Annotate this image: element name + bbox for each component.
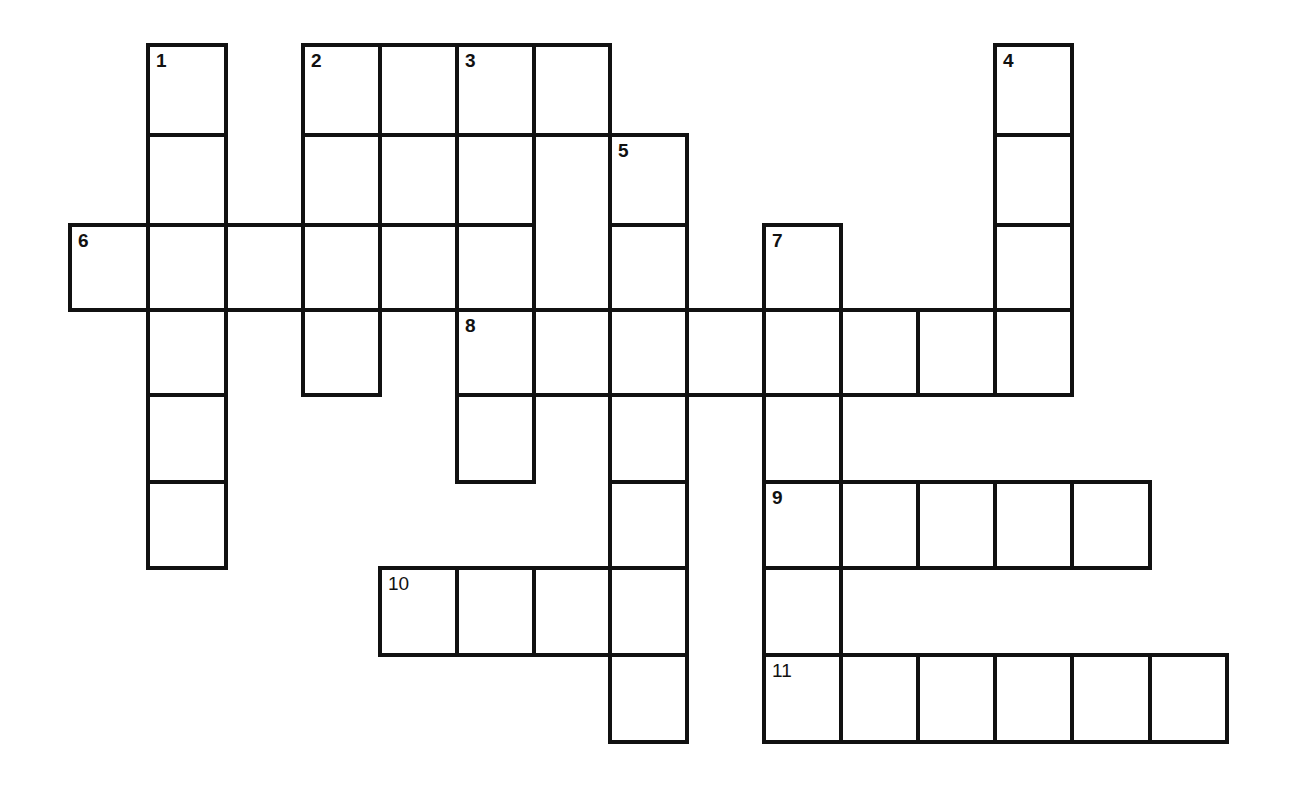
- crossword-cell[interactable]: [608, 653, 689, 744]
- crossword-cell[interactable]: [146, 480, 228, 570]
- clue-number: 5: [618, 141, 629, 160]
- crossword-cell[interactable]: [378, 43, 459, 137]
- crossword-cell[interactable]: [1070, 653, 1152, 744]
- clue-number: 4: [1003, 51, 1014, 70]
- clue-number: 3: [465, 51, 476, 70]
- clue-number: 10: [388, 574, 409, 593]
- clue-number: 1: [156, 51, 167, 70]
- crossword-cell[interactable]: 1: [146, 43, 228, 137]
- crossword-cell[interactable]: [762, 308, 843, 397]
- crossword-cell[interactable]: [993, 308, 1074, 397]
- crossword-cell[interactable]: [608, 480, 689, 570]
- crossword-cell[interactable]: [839, 653, 920, 744]
- crossword-cell[interactable]: [608, 223, 689, 312]
- crossword-cell[interactable]: [1148, 653, 1229, 744]
- crossword-cell[interactable]: [1070, 480, 1152, 570]
- crossword-cell[interactable]: [608, 566, 689, 657]
- crossword-cell[interactable]: 9: [762, 480, 843, 570]
- crossword-cell[interactable]: 4: [993, 43, 1074, 137]
- crossword-cell[interactable]: [455, 566, 536, 657]
- crossword-cell[interactable]: [532, 308, 612, 397]
- crossword-cell[interactable]: [455, 393, 536, 484]
- clue-number: 2: [311, 51, 322, 70]
- clue-number: 9: [772, 488, 783, 507]
- crossword-cell[interactable]: [532, 133, 612, 312]
- crossword-cell[interactable]: 8: [455, 308, 536, 397]
- crossword-cell[interactable]: [301, 308, 382, 397]
- crossword-cell[interactable]: [762, 393, 843, 484]
- crossword-cell[interactable]: [301, 133, 382, 227]
- crossword-cell[interactable]: [993, 133, 1074, 227]
- crossword-cell[interactable]: [762, 566, 843, 657]
- crossword-cell[interactable]: [916, 308, 997, 397]
- crossword-grid: 1235674891011: [0, 0, 1301, 793]
- crossword-cell[interactable]: [146, 308, 228, 397]
- crossword-cell[interactable]: [146, 223, 228, 312]
- clue-number: 6: [78, 231, 89, 250]
- crossword-cell[interactable]: [378, 223, 459, 312]
- crossword-cell[interactable]: 6: [68, 223, 150, 312]
- crossword-cell[interactable]: [839, 480, 920, 570]
- crossword-cell[interactable]: [993, 223, 1074, 312]
- crossword-cell[interactable]: [455, 133, 536, 227]
- clue-number: 7: [772, 231, 783, 250]
- clue-number: 8: [465, 316, 476, 335]
- crossword-cell[interactable]: [839, 308, 920, 397]
- crossword-cell[interactable]: 5: [608, 133, 689, 227]
- clue-number: 11: [772, 661, 792, 680]
- crossword-cell[interactable]: [146, 393, 228, 484]
- crossword-cell[interactable]: 3: [455, 43, 536, 137]
- crossword-cell[interactable]: [916, 653, 997, 744]
- crossword-cell[interactable]: [685, 308, 766, 397]
- crossword-cell[interactable]: [532, 43, 612, 137]
- crossword-cell[interactable]: [301, 223, 382, 312]
- crossword-cell[interactable]: [993, 480, 1074, 570]
- crossword-cell[interactable]: [224, 223, 305, 312]
- crossword-cell[interactable]: [532, 566, 612, 657]
- crossword-cell[interactable]: 10: [378, 566, 459, 657]
- crossword-cell[interactable]: [455, 223, 536, 312]
- crossword-cell[interactable]: 2: [301, 43, 382, 137]
- crossword-cell[interactable]: 7: [762, 223, 843, 312]
- crossword-cell[interactable]: [608, 308, 689, 397]
- crossword-cell[interactable]: [146, 133, 228, 227]
- crossword-cell[interactable]: [378, 133, 459, 227]
- crossword-cell[interactable]: [916, 480, 997, 570]
- crossword-cell[interactable]: [993, 653, 1074, 744]
- crossword-cell[interactable]: 11: [762, 653, 843, 744]
- crossword-cell[interactable]: [608, 393, 689, 484]
